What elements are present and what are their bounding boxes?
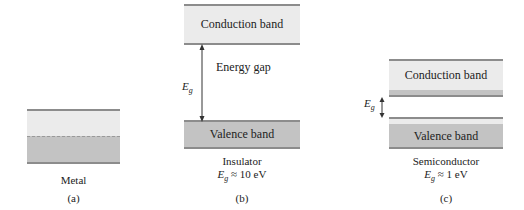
metal-label: Metal	[27, 174, 120, 186]
semiconductor-gap-value: Eg ≈ 1 eV	[389, 168, 503, 183]
insulator-eg-label: Eg	[182, 80, 193, 95]
energy-gap-label: Energy gap	[216, 60, 271, 75]
valence-band-label: Valence band	[414, 129, 478, 144]
metal-upper-band	[27, 110, 120, 136]
semiconductor-valence-top-edge	[389, 117, 503, 119]
panel-tag-b: (b)	[184, 192, 300, 204]
semiconductor-conduction-top-edge	[389, 59, 503, 61]
semiconductor-conduction-bottom-edge	[389, 95, 503, 97]
energy-gap-double-arrow-icon	[196, 44, 208, 122]
semiconductor-valence-band: Valence band	[389, 124, 503, 148]
semiconductor-valence-bottom-edge	[389, 147, 503, 149]
panel-tag-c: (c)	[389, 192, 503, 204]
semiconductor-label: Semiconductor	[389, 155, 503, 167]
metal-lower-band	[27, 136, 120, 163]
conduction-band-label: Conduction band	[405, 68, 487, 83]
insulator-gap-value: Eg ≈ 10 eV	[184, 168, 300, 183]
insulator-conduction-top-edge	[184, 4, 300, 6]
insulator-valence-bottom-edge	[184, 147, 300, 149]
insulator-valence-band: Valence band	[184, 121, 300, 148]
insulator-label: Insulator	[184, 155, 300, 167]
semiconductor-eg-label: Eg	[364, 97, 375, 112]
semiconductor-conduction-band: Conduction band	[389, 60, 503, 90]
valence-band-label: Valence band	[210, 127, 274, 142]
energy-gap-double-arrow-icon	[377, 97, 387, 118]
fermi-level-dashed-line	[27, 136, 120, 137]
metal-top-edge	[27, 109, 120, 111]
metal-bottom-edge	[27, 162, 120, 164]
insulator-conduction-band: Conduction band	[184, 5, 300, 44]
panel-tag-a: (a)	[27, 192, 120, 204]
conduction-band-label: Conduction band	[201, 17, 283, 32]
